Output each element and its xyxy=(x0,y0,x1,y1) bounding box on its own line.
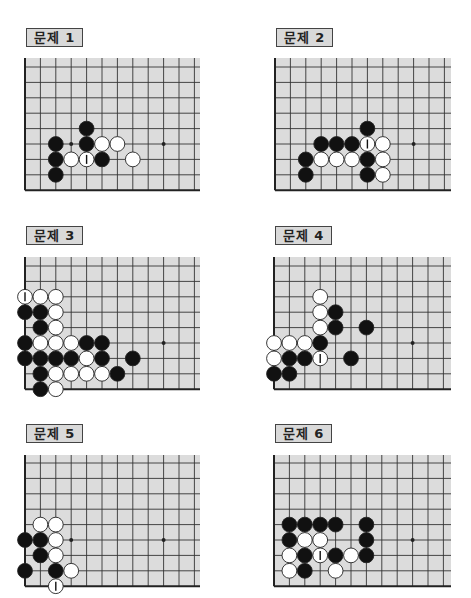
black-stone xyxy=(360,167,375,182)
white-stone xyxy=(267,336,282,351)
white-stone xyxy=(345,152,360,167)
white-stone xyxy=(297,336,312,351)
black-stone xyxy=(282,351,297,366)
black-stone xyxy=(125,351,140,366)
black-stone xyxy=(79,137,94,152)
black-stone xyxy=(48,563,63,578)
white-stone xyxy=(314,152,329,167)
go-board-6 xyxy=(274,455,451,586)
black-stone xyxy=(328,305,343,320)
black-stone xyxy=(297,548,312,563)
black-stone xyxy=(359,320,374,335)
black-stone xyxy=(298,152,313,167)
black-stone xyxy=(359,517,374,532)
white-stone xyxy=(329,152,344,167)
black-stone xyxy=(95,336,110,351)
white-stone xyxy=(95,137,110,152)
black-stone xyxy=(359,548,374,563)
black-stone xyxy=(328,320,343,335)
black-stone xyxy=(344,351,359,366)
white-stone xyxy=(48,336,63,351)
white-stone xyxy=(375,137,390,152)
white-stone xyxy=(33,289,48,304)
white-stone xyxy=(282,563,297,578)
black-stone xyxy=(95,351,110,366)
white-stone xyxy=(313,289,328,304)
black-stone xyxy=(48,152,63,167)
black-stone xyxy=(360,152,375,167)
white-stone-marked xyxy=(360,137,375,152)
white-stone xyxy=(48,366,63,381)
white-stone xyxy=(79,351,94,366)
black-stone xyxy=(18,305,33,320)
black-stone xyxy=(313,517,328,532)
black-stone xyxy=(48,351,63,366)
black-stone xyxy=(282,533,297,548)
white-stone-marked xyxy=(79,152,94,167)
white-stone-marked xyxy=(48,579,63,594)
black-stone xyxy=(18,351,33,366)
black-stone xyxy=(18,336,33,351)
hoshi-point xyxy=(412,142,416,146)
black-stone xyxy=(329,137,344,152)
go-board-1 xyxy=(25,58,200,190)
black-stone xyxy=(282,366,297,381)
black-stone xyxy=(297,517,312,532)
black-stone xyxy=(282,517,297,532)
black-stone xyxy=(79,121,94,136)
black-stone xyxy=(33,382,48,397)
hoshi-point xyxy=(162,538,166,542)
white-stone xyxy=(313,533,328,548)
white-stone xyxy=(375,167,390,182)
white-stone xyxy=(48,517,63,532)
white-stone xyxy=(125,152,140,167)
hoshi-point xyxy=(69,538,73,542)
black-stone xyxy=(328,517,343,532)
white-stone xyxy=(33,336,48,351)
black-stone xyxy=(33,320,48,335)
go-board-5 xyxy=(18,455,200,594)
go-board-3 xyxy=(18,257,200,397)
black-stone xyxy=(297,351,312,366)
black-stone xyxy=(110,366,125,381)
hoshi-point xyxy=(411,538,415,542)
black-stone xyxy=(64,351,79,366)
black-stone xyxy=(33,366,48,381)
white-stone xyxy=(110,137,125,152)
white-stone xyxy=(33,517,48,532)
go-board-4 xyxy=(267,257,451,389)
black-stone xyxy=(33,305,48,320)
black-stone xyxy=(297,563,312,578)
white-stone xyxy=(282,548,297,563)
white-stone-marked xyxy=(313,548,328,563)
white-stone xyxy=(64,563,79,578)
white-stone xyxy=(313,320,328,335)
hoshi-point xyxy=(162,142,166,146)
white-stone xyxy=(64,336,79,351)
hoshi-point xyxy=(69,142,73,146)
white-stone xyxy=(297,533,312,548)
white-stone xyxy=(48,305,63,320)
black-stone xyxy=(79,336,94,351)
white-stone xyxy=(267,351,282,366)
black-stone xyxy=(345,137,360,152)
black-stone xyxy=(18,563,33,578)
hoshi-point xyxy=(162,341,166,345)
white-stone xyxy=(48,533,63,548)
white-stone xyxy=(64,366,79,381)
white-stone xyxy=(95,366,110,381)
black-stone xyxy=(95,152,110,167)
white-stone xyxy=(48,320,63,335)
go-boards xyxy=(0,0,471,598)
go-board-2 xyxy=(275,58,451,190)
black-stone xyxy=(313,336,328,351)
white-stone xyxy=(48,382,63,397)
white-stone xyxy=(313,305,328,320)
hoshi-point xyxy=(411,341,415,345)
black-stone xyxy=(328,548,343,563)
white-stone xyxy=(375,152,390,167)
white-stone-marked xyxy=(313,351,328,366)
black-stone xyxy=(48,137,63,152)
black-stone xyxy=(33,351,48,366)
white-stone-marked xyxy=(18,289,33,304)
